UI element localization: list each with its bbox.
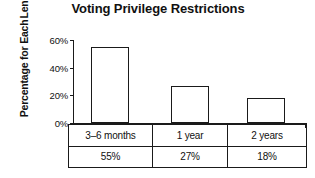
y-tick-mark-1 — [70, 95, 74, 96]
table-row-values: 55% 27% 18% — [69, 147, 306, 168]
y-tick-mark-2 — [70, 68, 74, 69]
table-cell-category-2: 2 years — [228, 125, 306, 146]
table-cell-category-0: 3–6 months — [69, 125, 153, 146]
plot-area: 0%20%40%60% — [73, 40, 307, 124]
y-tick-mark-3 — [70, 40, 74, 41]
y-axis-label: Percentage for Each Length — [8, 0, 40, 111]
data-table: 3–6 months 1 year 2 years 55% 27% 18% — [68, 124, 307, 168]
bar-2 — [247, 98, 285, 123]
y-tick-label-1: 20% — [50, 90, 68, 101]
table-cell-category-1: 1 year — [153, 125, 228, 146]
y-tick-label-3: 60% — [50, 35, 68, 46]
y-axis-label-line-1: Percentage for Each — [18, 20, 30, 118]
chart-title: Voting Privilege Restrictions — [38, 1, 278, 16]
table-cell-value-0: 55% — [69, 147, 153, 168]
y-axis-label-line-2: Length — [18, 0, 30, 19]
bar-0 — [91, 47, 129, 123]
table-cell-value-1: 27% — [153, 147, 228, 168]
chart-figure: Voting Privilege Restrictions Percentage… — [0, 0, 315, 178]
bar-1 — [171, 86, 209, 123]
table-cell-value-2: 18% — [228, 147, 306, 168]
y-tick-label-0: 0% — [55, 118, 68, 129]
y-axis-line — [73, 40, 74, 124]
table-row-categories: 3–6 months 1 year 2 years — [69, 125, 306, 147]
y-tick-label-2: 40% — [50, 62, 68, 73]
